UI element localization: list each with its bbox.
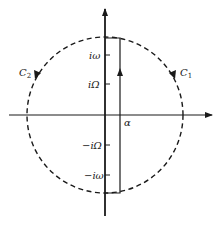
contour-diagram: iω iΩ −iΩ −iω α C2 C1: [0, 0, 224, 229]
label-neg-omega: −iω: [84, 170, 104, 181]
label-pos-omega: iω: [89, 50, 100, 61]
label-pos-Omega: iΩ: [88, 79, 100, 90]
label-c2: C2: [19, 67, 31, 80]
up-arrow-icon: [117, 68, 123, 76]
label-neg-Omega: −iΩ: [82, 140, 102, 151]
label-alpha: α: [124, 117, 131, 128]
label-c1: C1: [180, 67, 192, 80]
